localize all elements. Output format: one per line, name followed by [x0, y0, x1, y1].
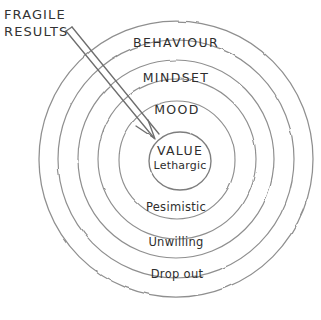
core-title-value: VALUE: [154, 143, 207, 158]
ring-label-mindset: MINDSET: [143, 71, 210, 84]
core-subtitle-lethargic: Lethargic: [154, 159, 207, 172]
value-core: VALUE Lethargic: [154, 143, 207, 172]
ring-label-drop-out: Drop out: [151, 268, 204, 280]
fragile-results-annotation: FRAGILE RESULTS: [4, 6, 68, 40]
ring-label-unwilling: Unwilling: [148, 236, 203, 248]
ring-label-behaviour: BEHAVIOUR: [133, 36, 219, 49]
diagram-canvas: FRAGILE RESULTS BEHAVIOUR MINDSET MOOD V…: [0, 0, 321, 320]
annotation-line-1: FRAGILE: [4, 6, 68, 23]
annotation-line-2: RESULTS: [4, 23, 68, 40]
ring-label-mood: MOOD: [154, 103, 200, 116]
ring-label-pesimistic: Pesimistic: [146, 201, 206, 213]
